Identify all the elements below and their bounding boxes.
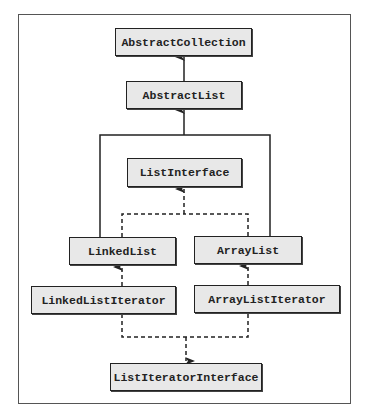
node-linked-list-iterator: LinkedListIterator (31, 286, 176, 314)
edge-linkedlist-to-listinterface (122, 214, 184, 237)
node-label: ListIteratorInterface (114, 371, 259, 384)
node-label: ListInterface (140, 166, 230, 179)
edge-arraylistiterator-to-listiteratorinterface (186, 314, 248, 337)
node-list-interface: ListInterface (127, 158, 242, 187)
node-label: AbstractCollection (121, 36, 245, 49)
node-array-list-iterator: ArrayListIterator (194, 285, 340, 313)
node-label: LinkedListIterator (41, 294, 165, 307)
edge-linkedlistiterator-to-listiteratorinterface (122, 314, 186, 337)
node-label: ArrayList (217, 244, 279, 257)
node-abstract-list: AbstractList (126, 81, 242, 109)
connector-lines (0, 0, 367, 420)
node-list-iterator-interface: ListIteratorInterface (110, 363, 262, 391)
node-array-list: ArrayList (194, 236, 302, 264)
node-label: ArrayListIterator (208, 293, 325, 306)
node-label: AbstractList (143, 89, 226, 102)
node-abstract-collection: AbstractCollection (115, 28, 252, 56)
edge-arraylist-to-listinterface (184, 214, 248, 236)
node-linked-list: LinkedList (69, 237, 176, 265)
node-label: LinkedList (88, 245, 157, 258)
